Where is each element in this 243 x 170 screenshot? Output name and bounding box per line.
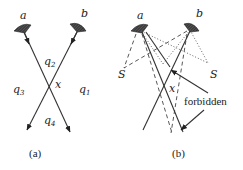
mirror-a-icon bbox=[14, 24, 31, 33]
mirror-a-icon bbox=[131, 24, 148, 33]
label-q4: q4 bbox=[44, 114, 56, 128]
dashed-b-to-s-left bbox=[124, 31, 187, 68]
label-x: x bbox=[55, 78, 62, 91]
arrow-a-direction bbox=[24, 32, 29, 44]
caption-a: (a) bbox=[29, 147, 42, 160]
label-b: b bbox=[81, 7, 88, 20]
label-s-right: S bbox=[210, 68, 218, 81]
dashed-a-to-s-left bbox=[124, 34, 136, 68]
label-q2: q2 bbox=[44, 55, 56, 69]
caption-b: (b) bbox=[172, 147, 185, 160]
dotted-b-to-s-right bbox=[190, 30, 208, 63]
mirror-b-icon bbox=[70, 23, 86, 32]
label-q1: q1 bbox=[79, 83, 91, 97]
forbidden-arrow-upper bbox=[171, 70, 208, 93]
label-x: x bbox=[169, 82, 176, 95]
dotted-a-to-s-right bbox=[141, 31, 208, 63]
mirror-b-icon bbox=[184, 23, 199, 32]
ray-from-b bbox=[27, 32, 77, 130]
label-q3: q3 bbox=[13, 83, 25, 97]
label-forbidden: forbidden bbox=[184, 95, 227, 107]
label-a: a bbox=[137, 9, 144, 22]
panel-b: a b S S x forbidden (b) bbox=[118, 7, 227, 160]
diagram-figure: a b q2 x q3 q1 q4 (a) a b S S bbox=[0, 0, 243, 170]
panel-a: a b q2 x q3 q1 q4 (a) bbox=[13, 7, 91, 160]
label-a: a bbox=[20, 9, 27, 22]
forbidden-arrow-lower bbox=[181, 110, 204, 130]
label-s-left: S bbox=[118, 68, 126, 81]
label-b: b bbox=[196, 7, 203, 20]
arrow-b-direction bbox=[71, 32, 77, 44]
